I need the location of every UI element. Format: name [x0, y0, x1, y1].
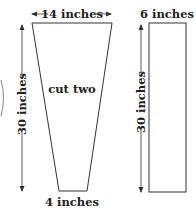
rectangle-piece [149, 23, 186, 192]
partial-arc-shape [1, 80, 4, 116]
top-width-label: 14 inches [41, 7, 103, 21]
right-height-label: 30 inches [134, 71, 148, 133]
rect-width-label: 6 inches [140, 7, 194, 21]
cut-two-label: cut two [48, 82, 96, 96]
bottom-width-label: 4 inches [45, 195, 99, 209]
diagram-svg: 14 inches 30 inches cut two 4 inches 6 i… [0, 0, 196, 212]
left-height-label: 30 inches [15, 73, 29, 135]
trapezoid-piece [32, 23, 112, 191]
pattern-diagram: 14 inches 30 inches cut two 4 inches 6 i… [0, 0, 196, 212]
